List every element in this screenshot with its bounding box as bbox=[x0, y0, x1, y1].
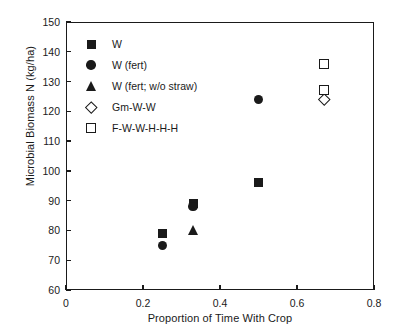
y-tick-label: 90 bbox=[20, 196, 60, 207]
data-point-open-square bbox=[319, 59, 329, 69]
x-tick-mark bbox=[296, 285, 297, 290]
marker-glyph-filled-circle bbox=[86, 60, 96, 70]
y-tick-mark bbox=[66, 289, 71, 290]
marker-glyph-filled-square bbox=[87, 40, 96, 49]
legend-marker-icon bbox=[84, 121, 98, 135]
y-tick-mark bbox=[66, 140, 71, 141]
x-tick-mark bbox=[142, 285, 143, 290]
data-point-open-square bbox=[319, 85, 329, 95]
legend-marker-icon bbox=[84, 79, 98, 93]
marker-glyph-open-square bbox=[86, 123, 96, 133]
x-tick-mark bbox=[65, 285, 66, 290]
y-tick-label: 80 bbox=[20, 225, 60, 236]
legend-label: F-W-W-H-H-H bbox=[112, 121, 178, 135]
legend-label: W (fert) bbox=[112, 58, 147, 72]
chart-figure: Microbial Biomass N (kg/ha) 607080901001… bbox=[0, 0, 400, 336]
marker-glyph-open-diamond bbox=[85, 101, 97, 113]
legend-label: Gm-W-W bbox=[112, 100, 156, 114]
x-tick-mark bbox=[219, 285, 220, 290]
y-tick-label: 100 bbox=[20, 166, 60, 177]
x-tick-label: 0.8 bbox=[354, 298, 394, 309]
y-tick-label: 110 bbox=[20, 136, 60, 147]
y-tick-mark bbox=[66, 230, 71, 231]
y-tick-label: 140 bbox=[20, 47, 60, 58]
x-tick-label: 0 bbox=[46, 298, 86, 309]
y-tick-label: 150 bbox=[20, 17, 60, 28]
data-point-filled-square bbox=[254, 178, 263, 187]
y-tick-mark bbox=[66, 51, 71, 52]
data-point-filled-circle bbox=[188, 202, 198, 212]
y-tick-label: 60 bbox=[20, 285, 60, 296]
legend-marker-icon bbox=[84, 58, 98, 72]
y-tick-mark bbox=[66, 111, 71, 112]
x-tick-label: 0.4 bbox=[200, 298, 240, 309]
x-tick-mark bbox=[373, 285, 374, 290]
y-tick-mark bbox=[66, 21, 71, 22]
y-tick-mark bbox=[66, 81, 71, 82]
legend-label: W bbox=[112, 37, 122, 51]
legend-marker-icon bbox=[84, 100, 98, 114]
y-tick-label: 70 bbox=[20, 255, 60, 266]
y-tick-label: 120 bbox=[20, 106, 60, 117]
data-point-filled-square bbox=[158, 229, 167, 238]
data-point-filled-circle bbox=[158, 241, 168, 251]
data-point-filled-triangle bbox=[188, 225, 198, 235]
y-tick-label: 130 bbox=[20, 77, 60, 88]
x-tick-label: 0.2 bbox=[123, 298, 163, 309]
marker-glyph-filled-triangle bbox=[86, 81, 96, 91]
legend-label: W (fert; w/o straw) bbox=[112, 79, 197, 93]
y-tick-mark bbox=[66, 200, 71, 201]
x-tick-label: 0.6 bbox=[277, 298, 317, 309]
x-axis-label: Proportion of Time With Crop bbox=[66, 312, 374, 324]
legend-marker-icon bbox=[84, 37, 98, 51]
y-tick-mark bbox=[66, 260, 71, 261]
y-tick-mark bbox=[66, 170, 71, 171]
